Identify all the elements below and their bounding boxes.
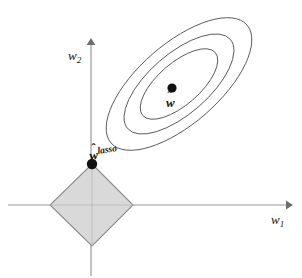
x-axis-label-subscript: 1	[280, 219, 285, 229]
y-axis-label-subscript: 2	[77, 55, 82, 65]
x-axis-arrow-icon	[286, 201, 293, 210]
y-axis-label: w2	[68, 48, 82, 65]
l1-constraint-region	[50, 164, 133, 246]
x-axis-label: w1	[271, 212, 284, 229]
x-axis-label-base: w	[271, 212, 280, 227]
y-axis-label-base: w	[68, 48, 77, 63]
lasso-estimate-label: wlasso	[88, 143, 118, 163]
rss-contour-inner	[129, 37, 229, 132]
lasso-geometry-figure: w2 w1 w ̂ wlasso ̂	[0, 0, 302, 278]
ols-estimate-label: w	[166, 95, 175, 110]
lasso-estimate-label-superscript: lasso	[97, 143, 118, 156]
y-axis-arrow-icon	[87, 38, 96, 45]
rss-contour-middle	[108, 17, 250, 152]
figure-canvas: w2 w1 w ̂ wlasso ̂	[0, 0, 302, 278]
ols-estimate-label-text: w	[166, 95, 175, 110]
ols-estimate-point	[167, 83, 176, 92]
